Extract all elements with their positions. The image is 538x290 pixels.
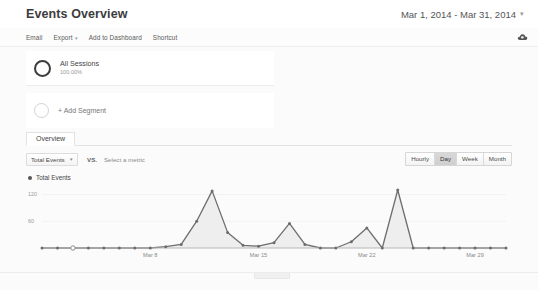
svg-text:120: 120 bbox=[28, 191, 37, 197]
granularity-day-button[interactable]: Day bbox=[435, 153, 457, 165]
granularity-week-button[interactable]: Week bbox=[457, 153, 484, 165]
chevron-down-icon: ▾ bbox=[75, 35, 78, 41]
primary-metric-label: Total Events bbox=[31, 156, 65, 163]
granularity-month-button[interactable]: Month bbox=[484, 153, 511, 165]
date-range-selector[interactable]: Mar 1, 2014 - Mar 31, 2014 ▾ bbox=[401, 9, 524, 20]
add-to-dashboard-button[interactable]: Add to Dashboard bbox=[89, 34, 142, 41]
svg-text:Mar 8: Mar 8 bbox=[143, 252, 157, 258]
cloud-icon[interactable] bbox=[517, 33, 528, 42]
tab-overview[interactable]: Overview bbox=[26, 132, 75, 146]
analytics-report-page: Events Overview Mar 1, 2014 - Mar 31, 20… bbox=[0, 0, 538, 290]
svg-text:Mar 29: Mar 29 bbox=[466, 252, 483, 258]
report-toolbar: Email Export▾ Add to Dashboard Shortcut bbox=[0, 28, 538, 47]
report-header: Events Overview Mar 1, 2014 - Mar 31, 20… bbox=[0, 0, 538, 28]
chevron-down-icon: ▾ bbox=[520, 10, 524, 18]
legend-label-total-events: Total Events bbox=[36, 174, 71, 181]
primary-metric-select[interactable]: Total Events ▾ bbox=[26, 153, 78, 166]
chart-canvas: 60120Mar 8Mar 15Mar 22Mar 29 bbox=[26, 186, 512, 268]
segment-name: All Sessions bbox=[60, 59, 99, 68]
shortcut-button[interactable]: Shortcut bbox=[153, 34, 178, 41]
events-timeline-chart[interactable]: 60120Mar 8Mar 15Mar 22Mar 29 bbox=[26, 186, 512, 268]
svg-text:Mar 15: Mar 15 bbox=[250, 252, 267, 258]
page-title: Events Overview bbox=[26, 7, 128, 21]
date-range-label: Mar 1, 2014 - Mar 31, 2014 bbox=[401, 9, 516, 20]
segment-list: All Sessions 100.00% + Add Segment bbox=[26, 51, 274, 128]
vs-label: VS. bbox=[87, 156, 97, 163]
segment-text: All Sessions 100.00% bbox=[60, 59, 99, 76]
segment-row-all-sessions[interactable]: All Sessions 100.00% bbox=[26, 51, 274, 86]
chart-collapse-handle[interactable] bbox=[254, 273, 290, 279]
svg-text:60: 60 bbox=[28, 218, 34, 224]
export-button[interactable]: Export▾ bbox=[53, 34, 77, 41]
email-button[interactable]: Email bbox=[26, 34, 42, 41]
segment-row-add-segment[interactable]: + Add Segment bbox=[26, 93, 274, 128]
export-label: Export bbox=[53, 34, 72, 41]
add-segment-ring-icon bbox=[34, 103, 49, 118]
legend-color-swatch bbox=[28, 176, 32, 180]
segment-ring-icon bbox=[34, 60, 51, 77]
granularity-button-group: Hourly Day Week Month bbox=[405, 152, 512, 166]
report-tabs: Overview bbox=[26, 130, 512, 146]
chart-legend: Total Events bbox=[28, 174, 71, 181]
metric-selector-bar: Total Events ▾ VS. Select a metric Hourl… bbox=[26, 152, 512, 166]
chevron-down-icon: ▾ bbox=[70, 156, 73, 162]
add-segment-label: + Add Segment bbox=[58, 107, 106, 114]
secondary-metric-select[interactable]: Select a metric bbox=[104, 156, 145, 163]
svg-text:Mar 22: Mar 22 bbox=[358, 252, 375, 258]
segment-percent: 100.00% bbox=[60, 69, 99, 77]
granularity-hourly-button[interactable]: Hourly bbox=[406, 153, 435, 165]
